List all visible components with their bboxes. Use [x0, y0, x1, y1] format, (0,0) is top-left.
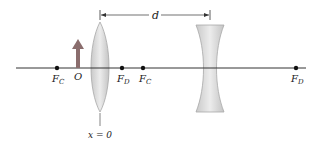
label-fd-right: FD: [290, 73, 304, 86]
label-object: O: [74, 71, 82, 82]
focal-point-fd-right: [294, 66, 298, 70]
object-arrow-icon: [72, 39, 84, 68]
focal-point-fc-right: [141, 66, 145, 70]
optics-diagram: FC O FD FC FD x = 0 d: [0, 0, 321, 145]
label-fc-right: FC: [138, 73, 152, 86]
focal-point-fd-mid: [120, 66, 124, 70]
focal-point-fc-left: [55, 66, 59, 70]
label-x-zero: x = 0: [88, 130, 112, 140]
label-d: d: [152, 9, 159, 22]
converging-lens: [91, 22, 109, 112]
label-fc-left: FC: [51, 73, 65, 86]
label-fd-mid: FD: [116, 73, 130, 86]
